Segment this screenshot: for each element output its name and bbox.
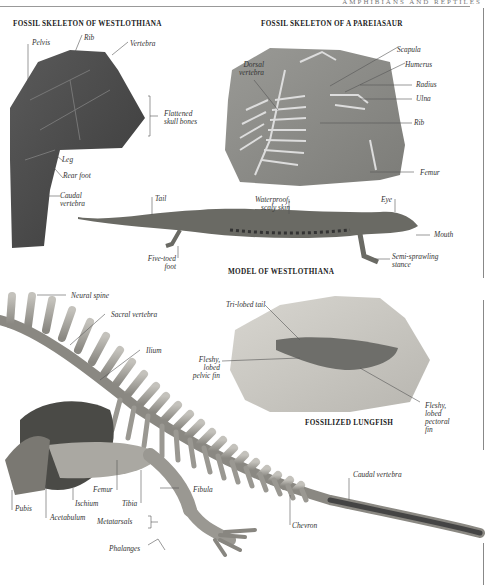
label-pelvis: Pelvis bbox=[32, 39, 50, 47]
label-tri-lobed-tail: Tri-lobed tail bbox=[226, 301, 265, 309]
label-five-toed-foot: Five-toed foot bbox=[140, 255, 176, 271]
label-pectoral-fin: Fleshy, lobed pectoral fin bbox=[425, 402, 450, 434]
label-mouth: Mouth bbox=[434, 231, 453, 239]
label-leg: Leg bbox=[62, 156, 73, 164]
label-rib-pareiasaur: Rib bbox=[414, 119, 424, 127]
westlothiana-model-title: MODEL OF WESTLOTHIANA bbox=[228, 268, 334, 276]
label-rib: Rib bbox=[84, 34, 94, 42]
lungfish-fossil-slab bbox=[230, 296, 430, 412]
label-ischium: Ischium bbox=[75, 500, 98, 508]
label-dorsal-vertebra: Dorsal vertebra bbox=[218, 61, 264, 77]
label-neural-spine: Neural spine bbox=[71, 292, 109, 300]
label-caudal-vertebra-skeleton: Caudal vertebra bbox=[353, 471, 402, 479]
label-metatarsals: Metatarsals bbox=[97, 518, 132, 526]
label-flattened-skull: Flattened skull bones bbox=[164, 110, 197, 126]
label-phalanges: Phalanges bbox=[109, 545, 140, 553]
label-scaly-skin: Waterproof, scaly skin bbox=[246, 196, 290, 212]
westlothiana-fossil-title: FOSSIL SKELETON OF WESTLOTHIANA bbox=[13, 20, 162, 28]
westlothiana-model bbox=[78, 209, 418, 262]
label-tail: Tail bbox=[155, 195, 166, 203]
pareiasaur-fossil-title: FOSSIL SKELETON OF A PAREIASAUR bbox=[261, 20, 403, 28]
label-eye: Eye bbox=[381, 196, 392, 204]
label-sacral-vertebra: Sacral vertebra bbox=[111, 311, 157, 319]
lungfish-title: FOSSILIZED LUNGFISH bbox=[305, 419, 393, 427]
label-femur: Femur bbox=[93, 486, 113, 494]
label-fibula: Fibula bbox=[193, 486, 213, 494]
label-scapula: Scapula bbox=[397, 46, 421, 54]
label-humerus: Humerus bbox=[405, 61, 432, 69]
label-pubis: Pubis bbox=[15, 505, 32, 513]
label-tibia: Tibia bbox=[122, 500, 137, 508]
label-ulna: Ulna bbox=[416, 95, 431, 103]
label-chevron: Chevron bbox=[292, 522, 317, 530]
label-caudal-vertebra: Caudal vertebra bbox=[60, 192, 85, 208]
label-vertebra: Vertebra bbox=[130, 40, 155, 48]
label-semi-sprawling-stance: Semi-sprawling stance bbox=[392, 253, 438, 269]
label-pelvic-fin: Fleshy, lobed pelvic fin bbox=[170, 356, 220, 380]
label-ilium: Ilium bbox=[146, 347, 162, 355]
label-radius: Radius bbox=[416, 81, 437, 89]
label-rear-foot: Rear foot bbox=[63, 172, 91, 180]
label-femur-pareiasaur: Femur bbox=[420, 169, 440, 177]
label-acetabulum: Acetabulum bbox=[50, 514, 85, 522]
